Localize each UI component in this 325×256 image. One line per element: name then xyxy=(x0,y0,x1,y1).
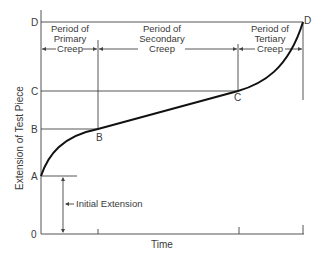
secondary-period-label: Period of Secondary Creep xyxy=(139,23,185,54)
initial-extension-label: Initial Extension xyxy=(76,198,143,209)
y-tick-b: B xyxy=(31,124,38,135)
point-b-label: B xyxy=(96,132,103,143)
x-axis-label: Time xyxy=(151,239,173,250)
y-tick-a: A xyxy=(31,171,38,182)
point-d-label: D xyxy=(304,15,311,26)
svg-text:Creep: Creep xyxy=(57,43,83,54)
svg-text:Creep: Creep xyxy=(257,43,283,54)
creep-curve-diagram: D C B A 0 B C D Extension of Test Piece … xyxy=(0,0,325,256)
y-axis-label: Extension of Test Piece xyxy=(14,86,25,190)
tertiary-period-label: Period of Tertiary Creep xyxy=(251,23,289,54)
y-tick-c: C xyxy=(31,86,38,97)
point-c-label: C xyxy=(234,92,241,103)
y-tick-0: 0 xyxy=(31,229,37,240)
svg-text:Creep: Creep xyxy=(149,43,175,54)
initial-extension-arrow xyxy=(61,177,74,233)
y-tick-d: D xyxy=(31,17,38,28)
